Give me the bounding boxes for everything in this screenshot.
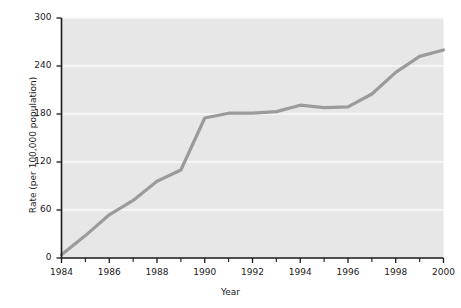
x-tick-label: 1994	[280, 267, 320, 277]
plot-area	[62, 18, 444, 258]
chart-container: 060120180240300 198419861988199019921994…	[0, 0, 461, 308]
x-tick-label: 1990	[185, 267, 225, 277]
x-tick-label: 1998	[376, 267, 416, 277]
y-axis-title: Rate (per 100,000 population)	[28, 65, 38, 225]
x-tick-label: 1984	[42, 267, 82, 277]
x-axis-title: Year	[0, 287, 461, 297]
x-tick-label: 1996	[328, 267, 368, 277]
x-tick-label: 1986	[89, 267, 129, 277]
line-chart	[0, 0, 461, 308]
y-tick-label: 300	[18, 12, 52, 22]
x-tick-label: 2000	[424, 267, 461, 277]
x-tick-label: 1988	[137, 267, 177, 277]
plot-background-group	[62, 18, 444, 258]
x-tick-label: 1992	[233, 267, 273, 277]
y-tick-label: 0	[18, 252, 52, 262]
